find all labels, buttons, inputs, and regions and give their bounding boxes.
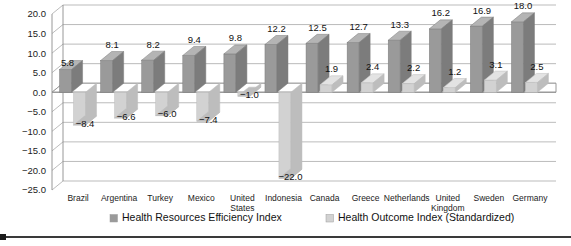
y-tick-label-6: −10.0 [22, 126, 46, 137]
value-label-2-s1: 8.2 [147, 39, 160, 50]
gridline-depth-1 [52, 25, 63, 34]
footer-divider [0, 236, 571, 238]
x-category-label-0-line-0: Brazil [67, 193, 88, 203]
value-label-8-s2: 2.2 [407, 62, 420, 73]
gridline-depth-8 [52, 161, 63, 170]
value-label-10-s1: 16.9 [473, 5, 492, 16]
value-label-9-s2: 1.2 [448, 66, 461, 77]
bar-4-series-1[interactable] [224, 45, 247, 92]
y-tick-label-8: −20.0 [22, 165, 46, 176]
value-label-7-s2: 2.4 [366, 61, 379, 72]
value-label-10-s2: 3.1 [489, 59, 502, 70]
bar-5-series-1[interactable] [265, 36, 288, 93]
legend-label-1: Health Outcome Index (Standardized) [338, 211, 514, 223]
value-label-8-s1: 13.3 [390, 19, 409, 30]
x-category-label-2-line-0: Turkey [147, 193, 173, 203]
bar-5-series-2[interactable] [279, 83, 302, 178]
value-label-7-s1: 12.7 [349, 21, 368, 32]
value-label-5-s2: −22.0 [278, 171, 302, 182]
x-category-label-9-line-0: United [436, 193, 461, 203]
legend-swatch-1 [326, 215, 334, 223]
bar-9-series-1[interactable] [429, 20, 452, 92]
value-label-9-s1: 16.2 [432, 7, 451, 18]
legend-label-0: Health Resources Efficiency Index [122, 211, 282, 223]
gridline-depth-0 [52, 5, 63, 14]
value-label-0-s1: 5.8 [61, 57, 74, 68]
value-label-3-s2: −7.4 [199, 114, 218, 125]
gridline-depth-6 [52, 122, 63, 131]
value-label-11-s2: 2.5 [530, 61, 543, 72]
value-label-6-s1: 12.5 [308, 22, 327, 33]
gridline-depth-9 [52, 181, 63, 190]
value-label-5-s1: 12.2 [267, 23, 286, 34]
legend-swatch-0 [110, 215, 118, 223]
x-category-label-4-line-0: United [230, 193, 255, 203]
y-tick-label-7: −15.0 [22, 145, 46, 156]
bar-1-series-1[interactable] [101, 52, 124, 93]
y-tick-label-4: 0.0 [33, 87, 46, 98]
value-label-3-s1: 9.4 [188, 34, 201, 45]
x-category-label-3-line-0: Mexico [188, 193, 215, 203]
bar-chart: 20.015.010.05.00.0−5.0−10.0−15.0−20.0−25… [0, 0, 571, 246]
bar-2-series-1[interactable] [142, 51, 165, 92]
x-category-label-7-line-0: Greece [352, 193, 380, 203]
value-label-4-s2: −1.0 [240, 89, 259, 100]
x-category-label-8-line-0: Netherlands [384, 193, 430, 203]
x-category-label-6-line-0: Canada [310, 193, 340, 203]
gridline-depth-5 [52, 103, 63, 112]
y-tick-label-0: 20.0 [28, 8, 47, 19]
value-label-2-s2: −6.0 [158, 108, 177, 119]
y-tick-label-2: 10.0 [28, 48, 47, 59]
corner-marker [0, 234, 6, 240]
x-category-label-1-line-0: Argentina [101, 193, 138, 203]
value-label-1-s2: −6.6 [117, 111, 136, 122]
x-category-label-11-line-0: Germany [512, 193, 548, 203]
value-label-6-s2: 1.9 [325, 63, 338, 74]
y-tick-label-3: 5.0 [33, 67, 46, 78]
y-tick-label-1: 15.0 [28, 28, 47, 39]
x-category-label-5-line-0: Indonesia [265, 193, 302, 203]
value-label-0-s2: −8.4 [76, 118, 95, 129]
value-label-11-s1: 18.0 [514, 0, 533, 11]
x-category-label-10-line-0: Sweden [474, 193, 505, 203]
gridline-depth-7 [52, 142, 63, 151]
value-label-4-s1: 9.8 [229, 32, 242, 43]
chart-container: 20.015.010.05.00.0−5.0−10.0−15.0−20.0−25… [0, 0, 571, 246]
y-tick-label-9: −25.0 [22, 184, 46, 195]
gridline-depth-2 [52, 44, 63, 53]
y-tick-label-5: −5.0 [27, 106, 46, 117]
value-label-1-s1: 8.1 [106, 39, 119, 50]
bar-3-series-1[interactable] [183, 46, 206, 92]
